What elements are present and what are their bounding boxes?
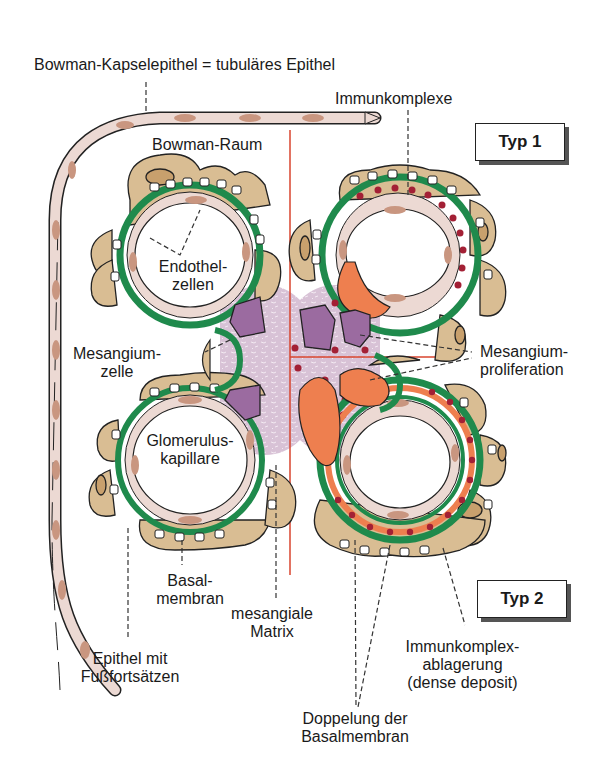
label-mesangial-proliferation: Mesangium- proliferation [480, 343, 568, 379]
label-bowman-space: Bowman-Raum [152, 136, 262, 154]
label-immune-complexes: Immunkomplexe [335, 90, 452, 108]
label-line: membran [150, 590, 230, 608]
label-bowman-capsule-epithelium: Bowman-Kapselepithel = tubuläres Epithel [34, 56, 335, 74]
type2-box: Typ 2 [477, 580, 567, 618]
label-line: ablagerung [395, 656, 530, 674]
label-line: Epithel mit [70, 650, 190, 668]
label-line: Basalmembran [290, 728, 420, 746]
capillary-bottom-right [299, 355, 506, 557]
type1-box: Typ 1 [475, 123, 565, 161]
label-endothelial-cells: Endothel- zellen [158, 258, 228, 294]
label-line: Basal- [150, 572, 230, 590]
label-line: Immunkomplex- [395, 638, 530, 656]
label-line: (dense deposit) [395, 674, 530, 692]
label-epithelium-foot-processes: Epithel mit Fußfortsätzen [70, 650, 190, 686]
label-line: Mesangium- [62, 345, 172, 363]
label-line: proliferation [480, 361, 568, 379]
label-line: Mesangium- [480, 343, 568, 361]
label-line: mesangiale [222, 605, 322, 623]
label-line: zelle [62, 363, 172, 381]
label-mesangial-cell: Mesangium- zelle [62, 345, 172, 381]
label-line: Fußfortsätzen [70, 668, 190, 686]
label-bm-doubling: Doppelung der Basalmembran [290, 710, 420, 746]
label-line: Doppelung der [290, 710, 420, 728]
label-basement-membrane: Basal- membran [150, 572, 230, 608]
label-line: Glomerulus- [140, 432, 240, 450]
label-line: Endothel- [158, 258, 228, 276]
label-mesangial-matrix: mesangiale Matrix [222, 605, 322, 641]
label-line: Matrix [222, 623, 322, 641]
label-line: kapillare [140, 450, 240, 468]
label-glomerular-capillary: Glomerulus- kapillare [140, 432, 240, 468]
label-line: zellen [158, 276, 228, 294]
label-immune-complex-deposit: Immunkomplex- ablagerung (dense deposit) [395, 638, 530, 692]
